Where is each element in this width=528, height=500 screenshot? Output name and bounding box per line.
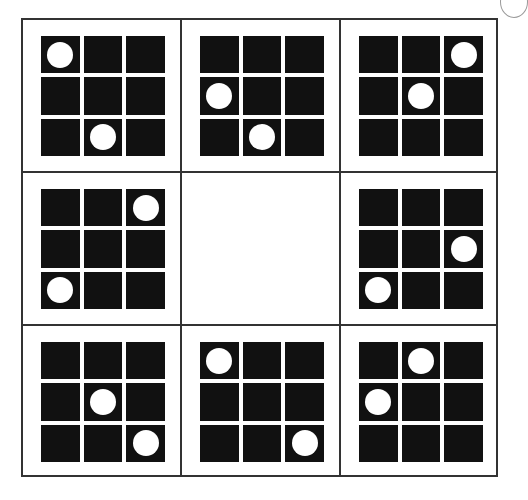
black-tile: [444, 342, 483, 379]
black-tile: [200, 425, 239, 462]
black-tile: [444, 272, 483, 309]
black-tile: [402, 36, 441, 73]
tile-grid: [359, 36, 483, 156]
black-tile: [84, 272, 123, 309]
tile-grid: [200, 342, 324, 462]
black-tile: [41, 383, 80, 420]
black-tile: [359, 230, 398, 267]
black-tile: [285, 119, 324, 156]
black-tile: [243, 36, 282, 73]
tile-grid: [41, 189, 165, 309]
black-tile: [200, 383, 239, 420]
black-tile: [41, 36, 80, 73]
white-circle-icon: [408, 348, 434, 374]
matrix-cell-r0-c2: [341, 20, 496, 173]
black-tile: [359, 36, 398, 73]
black-tile: [444, 36, 483, 73]
black-tile: [200, 36, 239, 73]
white-circle-icon: [292, 430, 318, 456]
black-tile: [444, 119, 483, 156]
black-tile: [444, 189, 483, 226]
scan-artifact-arc: [500, 0, 528, 18]
matrix-cell-r1-c0: [23, 173, 182, 326]
white-circle-icon: [408, 83, 434, 109]
white-circle-icon: [365, 389, 391, 415]
black-tile: [359, 272, 398, 309]
white-circle-icon: [206, 348, 232, 374]
white-circle-icon: [249, 124, 275, 150]
black-tile: [126, 119, 165, 156]
black-tile: [200, 77, 239, 114]
black-tile: [243, 342, 282, 379]
white-circle-icon: [451, 42, 477, 68]
missing-cell[interactable]: [182, 173, 341, 326]
black-tile: [126, 77, 165, 114]
white-circle-icon: [90, 389, 116, 415]
black-tile: [84, 119, 123, 156]
black-tile: [84, 77, 123, 114]
black-tile: [84, 36, 123, 73]
white-circle-icon: [206, 83, 232, 109]
black-tile: [243, 425, 282, 462]
black-tile: [243, 383, 282, 420]
black-tile: [402, 425, 441, 462]
black-tile: [126, 425, 165, 462]
black-tile: [243, 119, 282, 156]
tile-grid: [200, 36, 324, 156]
black-tile: [41, 272, 80, 309]
black-tile: [84, 342, 123, 379]
black-tile: [200, 342, 239, 379]
black-tile: [285, 425, 324, 462]
black-tile: [126, 383, 165, 420]
white-circle-icon: [365, 277, 391, 303]
black-tile: [402, 272, 441, 309]
tile-grid: [359, 342, 483, 462]
black-tile: [41, 230, 80, 267]
black-tile: [444, 425, 483, 462]
black-tile: [285, 36, 324, 73]
black-tile: [402, 342, 441, 379]
black-tile: [359, 189, 398, 226]
black-tile: [41, 342, 80, 379]
black-tile: [41, 119, 80, 156]
matrix-cell-r1-c2: [341, 173, 496, 326]
black-tile: [84, 230, 123, 267]
black-tile: [84, 425, 123, 462]
black-tile: [41, 189, 80, 226]
black-tile: [402, 119, 441, 156]
black-tile: [243, 77, 282, 114]
black-tile: [444, 383, 483, 420]
black-tile: [126, 342, 165, 379]
white-circle-icon: [133, 195, 159, 221]
matrix-cell-r2-c2: [341, 326, 496, 475]
black-tile: [285, 342, 324, 379]
black-tile: [402, 77, 441, 114]
black-tile: [285, 77, 324, 114]
white-circle-icon: [47, 42, 73, 68]
white-circle-icon: [47, 277, 73, 303]
black-tile: [359, 425, 398, 462]
black-tile: [84, 189, 123, 226]
black-tile: [402, 189, 441, 226]
black-tile: [402, 383, 441, 420]
matrix-cell-r0-c0: [23, 20, 182, 173]
black-tile: [359, 77, 398, 114]
black-tile: [285, 383, 324, 420]
black-tile: [444, 230, 483, 267]
black-tile: [200, 119, 239, 156]
black-tile: [126, 189, 165, 226]
puzzle-matrix: [21, 18, 498, 477]
matrix-cell-r2-c0: [23, 326, 182, 475]
black-tile: [126, 230, 165, 267]
black-tile: [126, 272, 165, 309]
white-circle-icon: [90, 124, 116, 150]
black-tile: [359, 342, 398, 379]
black-tile: [41, 425, 80, 462]
black-tile: [126, 36, 165, 73]
black-tile: [41, 77, 80, 114]
black-tile: [444, 77, 483, 114]
black-tile: [359, 119, 398, 156]
tile-grid: [41, 36, 165, 156]
black-tile: [84, 383, 123, 420]
matrix-cell-r0-c1: [182, 20, 341, 173]
